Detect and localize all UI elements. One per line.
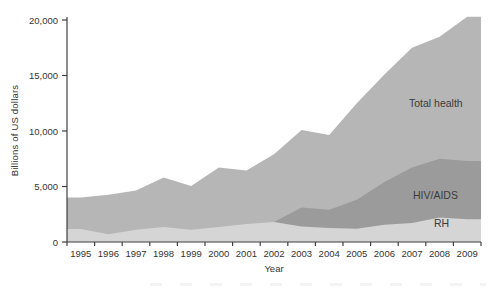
x-tick-label: 2008 xyxy=(429,248,450,259)
series-label-total-health: Total health xyxy=(409,97,463,109)
x-tick-label: 2005 xyxy=(346,248,367,259)
x-tick-label: 1995 xyxy=(70,248,91,259)
x-tick-label: 2009 xyxy=(457,248,478,259)
y-axis-title: Billions of US dollars xyxy=(9,76,20,186)
x-tick-label: 2006 xyxy=(374,248,395,259)
x-tick-label: 2001 xyxy=(236,248,257,259)
cropped-caption-remnant xyxy=(150,283,486,286)
y-tick-label: 5,000 xyxy=(34,181,58,192)
x-tick-label: 1997 xyxy=(125,248,146,259)
x-tick-label: 1998 xyxy=(153,248,174,259)
y-tick-label: 0 xyxy=(53,237,58,248)
series-label-rh: RH xyxy=(434,217,449,229)
y-tick-label: 20,000 xyxy=(29,15,58,26)
x-tick-label: 2000 xyxy=(208,248,229,259)
chart-areas xyxy=(67,17,481,242)
y-tick-label: 15,000 xyxy=(29,70,58,81)
y-tick-label: 10,000 xyxy=(29,126,58,137)
x-tick-label: 1999 xyxy=(181,248,202,259)
series-label-hiv-aids: HIV/AIDS xyxy=(413,189,458,201)
x-tick-label: 2004 xyxy=(319,248,340,259)
x-tick-label: 2007 xyxy=(401,248,422,259)
x-axis-title: Year xyxy=(264,263,283,274)
x-tick-label: 1996 xyxy=(98,248,119,259)
area-chart-figure: Billions of US dollars 05,00010,00015,00… xyxy=(0,0,492,288)
x-tick-label: 2003 xyxy=(291,248,312,259)
chart-canvas xyxy=(0,0,492,288)
x-tick-label: 2002 xyxy=(263,248,284,259)
